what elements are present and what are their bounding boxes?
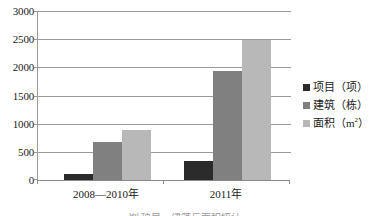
y-axis-labels: 3000 2500 2000 1500 1000 500 0 [0, 0, 34, 216]
caption-sliver: 图 项目、建筑与面积统计 [60, 213, 310, 216]
legend-item-xiangmu: 项目（项） [303, 80, 376, 94]
x-tick-label-group2: 2011年 [210, 188, 243, 201]
bar-group2-series2 [213, 71, 242, 180]
y-tick-label: 500 [0, 146, 34, 157]
bar-group1-series3 [122, 130, 151, 180]
bar-group1-series2 [93, 142, 122, 180]
y-tick-label: 1500 [0, 90, 34, 101]
bar-chart: 3000 2500 2000 1500 1000 500 0 [0, 0, 376, 216]
y-tick-label: 1000 [0, 118, 34, 129]
legend-item-jianzhu: 建筑（栋） [303, 98, 376, 112]
x-tickmark-middle [163, 180, 164, 184]
bars-layer [38, 11, 291, 180]
legend-label: 建筑（栋） [313, 99, 368, 111]
x-tick-label-group1: 2008—2010年 [73, 188, 139, 201]
legend-swatch-icon [303, 120, 310, 127]
chart-legend: 项目（项） 建筑（栋） 面积（m2） [303, 80, 376, 134]
bar-group2-series1 [184, 161, 213, 180]
legend-swatch-icon [303, 102, 310, 109]
legend-label-suffix: ） [358, 117, 369, 129]
y-tick-label: 0 [0, 175, 34, 186]
legend-item-mianji: 面积（m2） [303, 116, 376, 130]
bar-group2-series3 [242, 40, 271, 180]
x-tickmark-start [37, 180, 38, 184]
y-tick-label: 2500 [0, 34, 34, 45]
y-tick-label: 3000 [0, 6, 34, 17]
legend-label: 面积（m2） [313, 117, 369, 129]
x-tickmark-end [289, 180, 290, 184]
legend-swatch-icon [303, 84, 310, 91]
legend-label: 项目（项） [313, 81, 368, 93]
y-tick-label: 2000 [0, 62, 34, 73]
legend-label-prefix: 面积（m [313, 117, 355, 129]
plot-area [37, 11, 290, 180]
